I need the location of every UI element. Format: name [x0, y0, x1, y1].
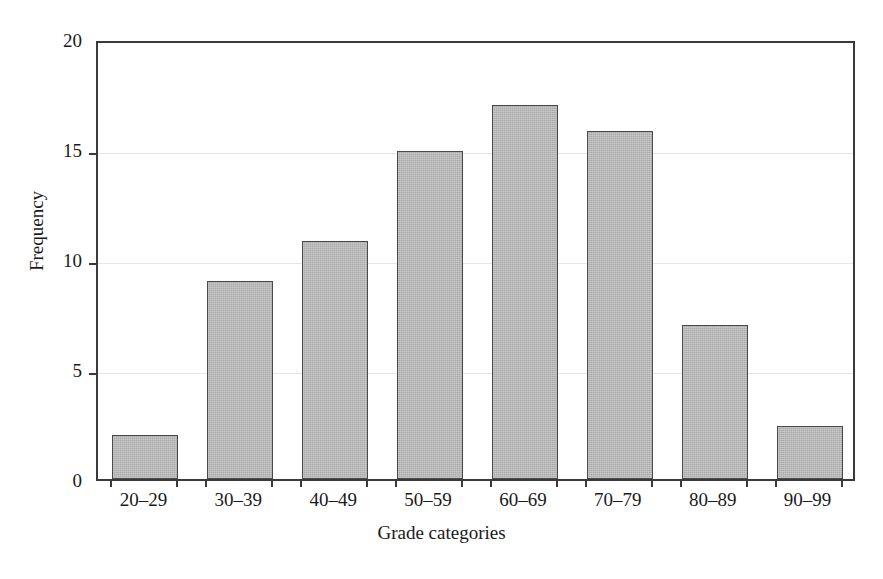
x-tick-mark-0-start	[110, 481, 112, 487]
x-tick-mark-0-end	[176, 481, 178, 487]
y-tick-mark-10	[89, 263, 98, 265]
x-tick-mark-4-start	[490, 481, 492, 487]
x-tick-mark-2-end	[366, 481, 368, 487]
gridline-15	[98, 153, 853, 154]
bar-20–29	[112, 435, 178, 479]
x-tick-mark-3-start	[395, 481, 397, 487]
x-tick-label-20–29: 20–29	[96, 489, 191, 511]
x-tick-mark-6-end	[746, 481, 748, 487]
x-tick-label-90–99: 90–99	[760, 489, 855, 511]
y-tick-mark-5	[89, 373, 98, 375]
plot-area	[96, 41, 855, 481]
x-axis-title: Grade categories	[0, 522, 883, 544]
x-tick-mark-2-start	[300, 481, 302, 487]
x-tick-mark-7-end	[841, 481, 843, 487]
x-tick-label-80–89: 80–89	[665, 489, 760, 511]
y-tick-label-5: 5	[22, 361, 82, 380]
x-tick-mark-3-end	[461, 481, 463, 487]
x-tick-mark-5-end	[651, 481, 653, 487]
x-tick-label-70–79: 70–79	[570, 489, 665, 511]
y-axis-title: Frequency	[26, 131, 48, 331]
bar-90–99	[777, 426, 843, 479]
y-tick-label-15: 15	[22, 141, 82, 160]
histogram-figure: Frequency 0 5 10 15 20 20–2930–3940–4950…	[0, 0, 883, 579]
x-tick-mark-6-start	[680, 481, 682, 487]
x-tick-mark-5-start	[585, 481, 587, 487]
x-tick-label-60–69: 60–69	[476, 489, 571, 511]
y-tick-label-10: 10	[22, 251, 82, 270]
y-tick-label-20: 20	[22, 31, 82, 50]
x-tick-mark-4-end	[556, 481, 558, 487]
x-tick-mark-7-start	[775, 481, 777, 487]
bar-40–49	[302, 241, 368, 479]
x-tick-mark-1-start	[205, 481, 207, 487]
bar-80–89	[682, 325, 748, 479]
y-tick-mark-15	[89, 153, 98, 155]
bar-60–69	[492, 105, 558, 479]
x-tick-label-50–59: 50–59	[381, 489, 476, 511]
y-tick-label-0: 0	[22, 471, 82, 490]
gridline-10	[98, 263, 853, 264]
x-tick-label-30–39: 30–39	[191, 489, 286, 511]
bar-70–79	[587, 131, 653, 479]
x-tick-label-40–49: 40–49	[286, 489, 381, 511]
bar-30–39	[207, 281, 273, 479]
x-tick-mark-1-end	[271, 481, 273, 487]
bar-50–59	[397, 151, 463, 479]
